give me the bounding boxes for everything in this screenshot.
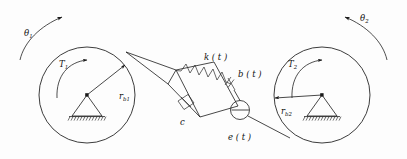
torque-1-label: T1 <box>59 59 68 70</box>
damper-c-piston <box>181 97 191 107</box>
radius-2-arrow <box>275 95 322 98</box>
spring-lead-in <box>176 71 181 72</box>
spring-zigzag <box>181 64 226 82</box>
pivot-triangle-2 <box>307 95 337 116</box>
mesh-block-left-branch <box>168 70 200 117</box>
theta-2-label: θ2 <box>360 13 369 24</box>
damper-b-label: b ( t ) <box>238 69 262 79</box>
excitation-stub <box>234 90 240 101</box>
ground-hatch-1 <box>68 117 106 121</box>
right-disk-group: θ2 T2 rb2 <box>274 13 387 143</box>
diagram-canvas: θ1 T1 rb1 <box>0 0 407 159</box>
torque-2-label: T2 <box>288 59 298 70</box>
damper-c-label: c <box>180 117 185 127</box>
excitation-e-icon <box>231 90 250 120</box>
spring-k-icon <box>176 64 231 84</box>
theta-1-rotation-arc <box>20 17 62 60</box>
radius-2-label: rb2 <box>281 106 293 117</box>
mesh-element-group: k ( t ) b ( t ) c e ( t ) <box>168 52 262 142</box>
spring-k-label: k ( t ) <box>204 52 227 62</box>
pivot-triangle-1 <box>72 95 102 116</box>
ground-hatch-2 <box>303 117 341 121</box>
left-disk-group: θ1 T1 rb1 <box>20 17 135 143</box>
connector-left-upper <box>126 52 176 70</box>
line-of-action-group <box>126 52 290 138</box>
connector-right <box>248 116 290 138</box>
excitation-e-label: e ( t ) <box>228 132 251 142</box>
radius-1-label: rb1 <box>119 91 130 102</box>
theta-1-label: θ1 <box>24 28 33 39</box>
gear-mesh-diagram: θ1 T1 rb1 <box>0 0 407 159</box>
